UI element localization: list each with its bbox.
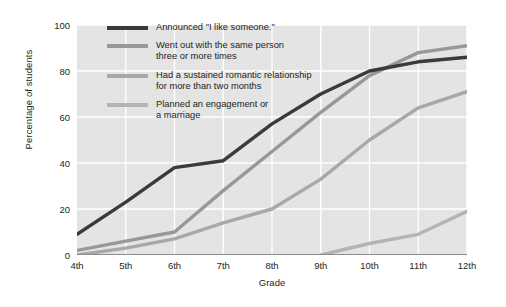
- legend-item: Had a sustained romantic relationship fo…: [107, 70, 367, 92]
- y-axis-title: Percentage of students: [23, 0, 34, 200]
- legend-item-label: Went out with the same person three or m…: [156, 40, 284, 62]
- y-tick-label: 40: [59, 158, 70, 169]
- x-tick-label: 11th: [409, 260, 427, 271]
- x-tick-label: 5th: [119, 260, 132, 271]
- y-tick-label: 0: [65, 250, 70, 261]
- legend-item-label: Had a sustained romantic relationship fo…: [156, 70, 312, 92]
- legend-item-label: Announced "I like someone.": [156, 22, 275, 33]
- y-tick-label: 100: [54, 20, 70, 31]
- legend-item-label: Planned an engagement or a marriage: [156, 99, 268, 121]
- legend-item: Planned an engagement or a marriage: [107, 99, 367, 121]
- line-chart-figure: Percentage of students Grade 02040608010…: [0, 0, 506, 307]
- x-axis-title: Grade: [77, 277, 467, 288]
- x-tick-label: 7th: [217, 260, 230, 271]
- x-tick-label: 12th: [458, 260, 477, 271]
- x-tick-label: 9th: [314, 260, 327, 271]
- legend-item: Went out with the same person three or m…: [107, 40, 367, 62]
- y-tick-label: 60: [59, 112, 70, 123]
- x-tick-label: 6th: [168, 260, 181, 271]
- y-tick-label: 80: [59, 66, 70, 77]
- legend-item: Announced "I like someone.": [107, 22, 367, 33]
- chart-legend: Announced "I like someone."Went out with…: [107, 22, 367, 128]
- legend-swatch-icon: [107, 44, 148, 48]
- legend-swatch-icon: [107, 26, 148, 30]
- legend-swatch-icon: [107, 103, 148, 107]
- legend-swatch-icon: [107, 74, 148, 78]
- y-tick-label: 20: [59, 204, 70, 215]
- x-tick-label: 4th: [70, 260, 83, 271]
- series-line: [321, 211, 467, 255]
- x-tick-label: 8th: [265, 260, 278, 271]
- x-tick-label: 10th: [360, 260, 379, 271]
